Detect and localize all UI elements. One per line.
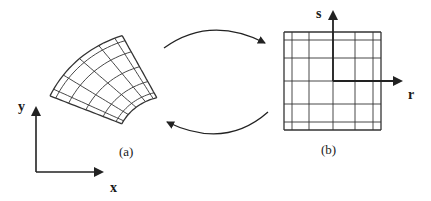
xy-axes: y x — [18, 99, 117, 195]
inverse-mapping-arrow — [167, 112, 268, 134]
curved-mesh — [50, 36, 157, 124]
r-axis-label: r — [408, 87, 414, 102]
curved-mesh-arc — [122, 98, 157, 124]
forward-mapping-arrow — [164, 30, 265, 48]
curved-mesh-arc — [116, 93, 154, 122]
s-axis-label: s — [316, 6, 322, 21]
caption-b: (b) — [321, 142, 336, 157]
curved-mesh-arc — [50, 36, 122, 96]
x-axis-label: x — [110, 180, 117, 195]
curved-mesh-arc — [56, 41, 125, 98]
curved-mesh-arc — [103, 82, 148, 117]
mapping-diagram: y x (a) s r (b) — [0, 0, 431, 201]
y-axis-label: y — [18, 99, 25, 114]
caption-a: (a) — [119, 144, 133, 159]
rs-axes: s r — [316, 6, 414, 102]
